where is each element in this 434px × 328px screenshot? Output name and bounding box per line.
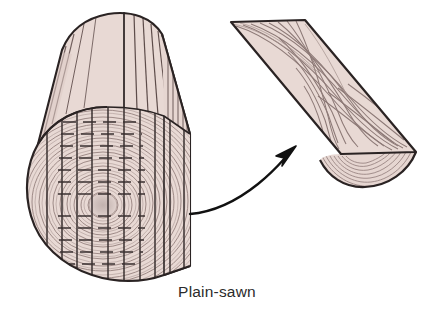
extraction-arrow xyxy=(190,146,296,214)
board-group xyxy=(231,20,416,187)
board-waney-end xyxy=(320,152,416,187)
log-end-grain-face xyxy=(0,89,223,307)
figure-root: Plain-sawn xyxy=(0,0,434,328)
board-top-face xyxy=(231,20,416,154)
pith-center xyxy=(89,193,117,217)
log-group xyxy=(0,12,223,307)
plain-sawn-illustration xyxy=(0,0,434,328)
